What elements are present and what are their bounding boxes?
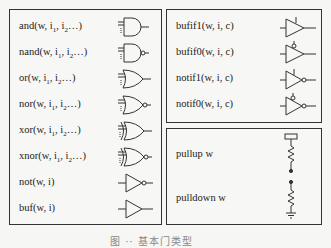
gate-row-xnor: xnor(w, i1, i2…) [10,145,161,169]
gate-row-buf: buf(w, i) [10,197,161,221]
tristate-gates-panel: bufif1(w, i, c) bufif0(w, i, c) notif1(w… [166,9,322,123]
gate-label: bufif0(w, i, c) [176,46,234,57]
gate-label: or(w, i1, i2…) [19,72,75,86]
gate-label: notif0(w, i, c) [176,98,233,109]
gate-label: nand(w, i1, i2…) [19,46,87,60]
gate-row-xor: xor(w, i1, i2…) [10,119,161,143]
figure-caption: 图 ·· 基本门类型 [110,233,193,248]
gate-row-bufif0: bufif0(w, i, c) [167,41,321,65]
gate-row-or: or(w, i1, i2…) [10,67,161,91]
nand-gate-icon [118,43,158,63]
buffer-gate-icon [118,199,158,219]
nor-gate-icon [118,95,158,115]
pullup-label: pullup w [176,148,213,159]
basic-gates-panel: and(w, i1, i2…) nand(w, i1, i2…) or(w, i… [9,9,162,225]
gate-label: xnor(w, i1, i2…) [19,150,86,164]
gate-row-and: and(w, i1, i2…) [10,15,161,39]
gate-row-notif1: notif1(w, i, c) [167,67,321,91]
xnor-gate-icon [118,147,158,167]
gate-row-not: not(w, i) [10,171,161,195]
and-gate-icon [118,17,158,37]
gate-row-nand: nand(w, i1, i2…) [10,41,161,65]
gate-label: nor(w, i1, i2…) [19,98,81,112]
gate-label: xor(w, i1, i2…) [19,124,81,138]
gate-label: not(w, i) [19,176,54,187]
gate-row-bufif1: bufif1(w, i, c) [167,15,321,39]
notif1-icon [280,68,320,90]
gate-label: notif1(w, i, c) [176,72,233,83]
not-gate-icon [118,173,158,193]
gate-label: bufif1(w, i, c) [176,20,234,31]
pull-resistors-panel: pullup w pulldown w [166,128,322,225]
bufif0-icon [280,42,320,64]
bufif1-icon [280,16,320,38]
gate-label: buf(w, i) [19,202,55,213]
pulldown-resistor-icon [283,179,307,224]
pulldown-label: pulldown w [176,192,226,203]
notif0-icon [280,94,320,116]
gate-row-notif0: notif0(w, i, c) [167,93,321,117]
pullup-resistor-icon [283,134,307,179]
xor-gate-icon [118,121,158,141]
gate-row-nor: nor(w, i1, i2…) [10,93,161,117]
gate-label: and(w, i1, i2…) [19,20,82,34]
or-gate-icon [118,69,158,89]
